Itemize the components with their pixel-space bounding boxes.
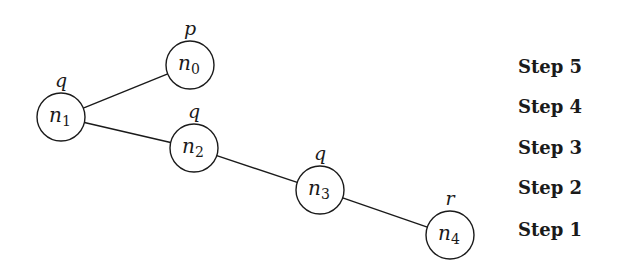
edge-n1-n2	[84, 122, 170, 142]
node-proposition: r	[445, 187, 456, 209]
edge-n3-n4	[343, 198, 428, 227]
node-n0: n0p	[166, 17, 214, 89]
node-proposition: q	[55, 69, 67, 91]
tree-diagram: n0pn1qn2qn3qn4r Step 5Step 4Step 3Step 2…	[0, 0, 628, 277]
step-label: Step 1	[518, 219, 582, 240]
node-n4: n4r	[426, 187, 474, 259]
node-proposition: q	[314, 142, 326, 164]
step-label: Step 4	[518, 96, 582, 117]
edge-n1-n0	[83, 74, 167, 108]
step-label: Step 3	[518, 137, 582, 158]
edge-n2-n3	[217, 156, 297, 183]
node-proposition: p	[184, 17, 196, 39]
node-n2: n2q	[170, 100, 218, 172]
node-n3: n3q	[296, 142, 344, 214]
step-label: Step 5	[518, 56, 582, 77]
node-n1: n1q	[37, 69, 85, 141]
step-label: Step 2	[518, 177, 582, 198]
node-proposition: q	[188, 100, 200, 122]
